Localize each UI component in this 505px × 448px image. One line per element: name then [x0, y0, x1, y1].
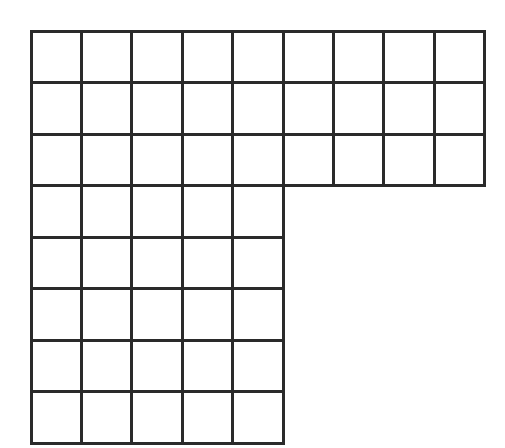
grid-cell: [132, 237, 182, 289]
grid-cell: [233, 134, 283, 186]
grid-cell: [31, 83, 81, 135]
grid-cell: [384, 31, 434, 83]
grid-cell: [81, 83, 131, 135]
grid-cell: [81, 134, 131, 186]
grid-cell: [233, 237, 283, 289]
grid-cell: [182, 134, 232, 186]
grid-cell: [233, 186, 283, 238]
grid-cell: [132, 392, 182, 444]
grid-cell: [434, 83, 484, 135]
grid-cell: [81, 289, 131, 341]
grid-cell: [333, 134, 383, 186]
grid-cell: [31, 237, 81, 289]
grid-cell: [233, 340, 283, 392]
grid-cell: [434, 31, 484, 83]
grid-cell: [283, 31, 333, 83]
grid-cell: [233, 31, 283, 83]
grid-cell: [182, 340, 232, 392]
grid-cell: [384, 83, 434, 135]
grid-cell: [31, 392, 81, 444]
grid-cell: [182, 186, 232, 238]
grid-cell: [333, 83, 383, 135]
grid-cell: [283, 83, 333, 135]
grid-cell: [81, 237, 131, 289]
grid-cell: [182, 237, 232, 289]
grid-cell: [81, 392, 131, 444]
grid-cell: [132, 340, 182, 392]
grid-cell: [132, 186, 182, 238]
grid-cell: [132, 289, 182, 341]
grid-cell: [384, 134, 434, 186]
grid-cell: [333, 31, 383, 83]
grid-cell: [233, 83, 283, 135]
grid-cell: [182, 289, 232, 341]
diagram-canvas: [0, 0, 505, 448]
grid-cell: [132, 31, 182, 83]
grid-cell: [81, 31, 131, 83]
grid-cell: [31, 289, 81, 341]
grid-cell: [233, 392, 283, 444]
grid-cell: [182, 392, 232, 444]
grid-cell: [132, 83, 182, 135]
grid-cell: [283, 134, 333, 186]
grid-cell: [434, 134, 484, 186]
grid-cell: [31, 134, 81, 186]
grid-cell: [182, 83, 232, 135]
grid-cell: [31, 340, 81, 392]
grid-cell: [81, 340, 131, 392]
grid-cell: [31, 31, 81, 83]
grid-cell: [233, 289, 283, 341]
grid-cell: [81, 186, 131, 238]
grid-cell: [31, 186, 81, 238]
grid-cell: [132, 134, 182, 186]
grid-cell: [182, 31, 232, 83]
grid-figure: [0, 0, 505, 448]
